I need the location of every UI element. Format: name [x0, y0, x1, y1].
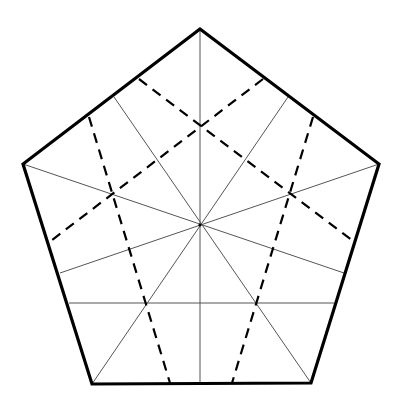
- ray-upper-left-vertex: [23, 164, 344, 273]
- dash-right-near-vertical: [232, 117, 313, 383]
- pentagon-figure: [0, 0, 404, 398]
- pentagon-diagram: [0, 0, 404, 398]
- ray-lower-right-vertex: [114, 97, 311, 383]
- dash-left-near-vertical: [89, 117, 170, 383]
- pentagon-outline: [23, 29, 379, 384]
- dash-upper-left-diag: [139, 79, 353, 241]
- dashed-fold-lines: [52, 79, 353, 383]
- ray-lower-left-vertex: [92, 97, 288, 384]
- center-point: [198, 223, 201, 226]
- ray-upper-right-vertex: [60, 164, 379, 273]
